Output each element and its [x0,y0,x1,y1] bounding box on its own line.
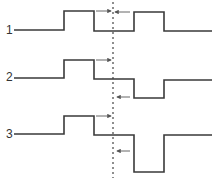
trace-2: 2 [6,60,212,98]
trace-1: 1 [6,11,212,37]
trace-label: 3 [6,127,13,141]
trace-3: 3 [6,116,212,172]
trace-label: 1 [6,23,13,37]
waveform-diagram: 123 [0,0,220,180]
trace-label: 2 [6,70,13,84]
